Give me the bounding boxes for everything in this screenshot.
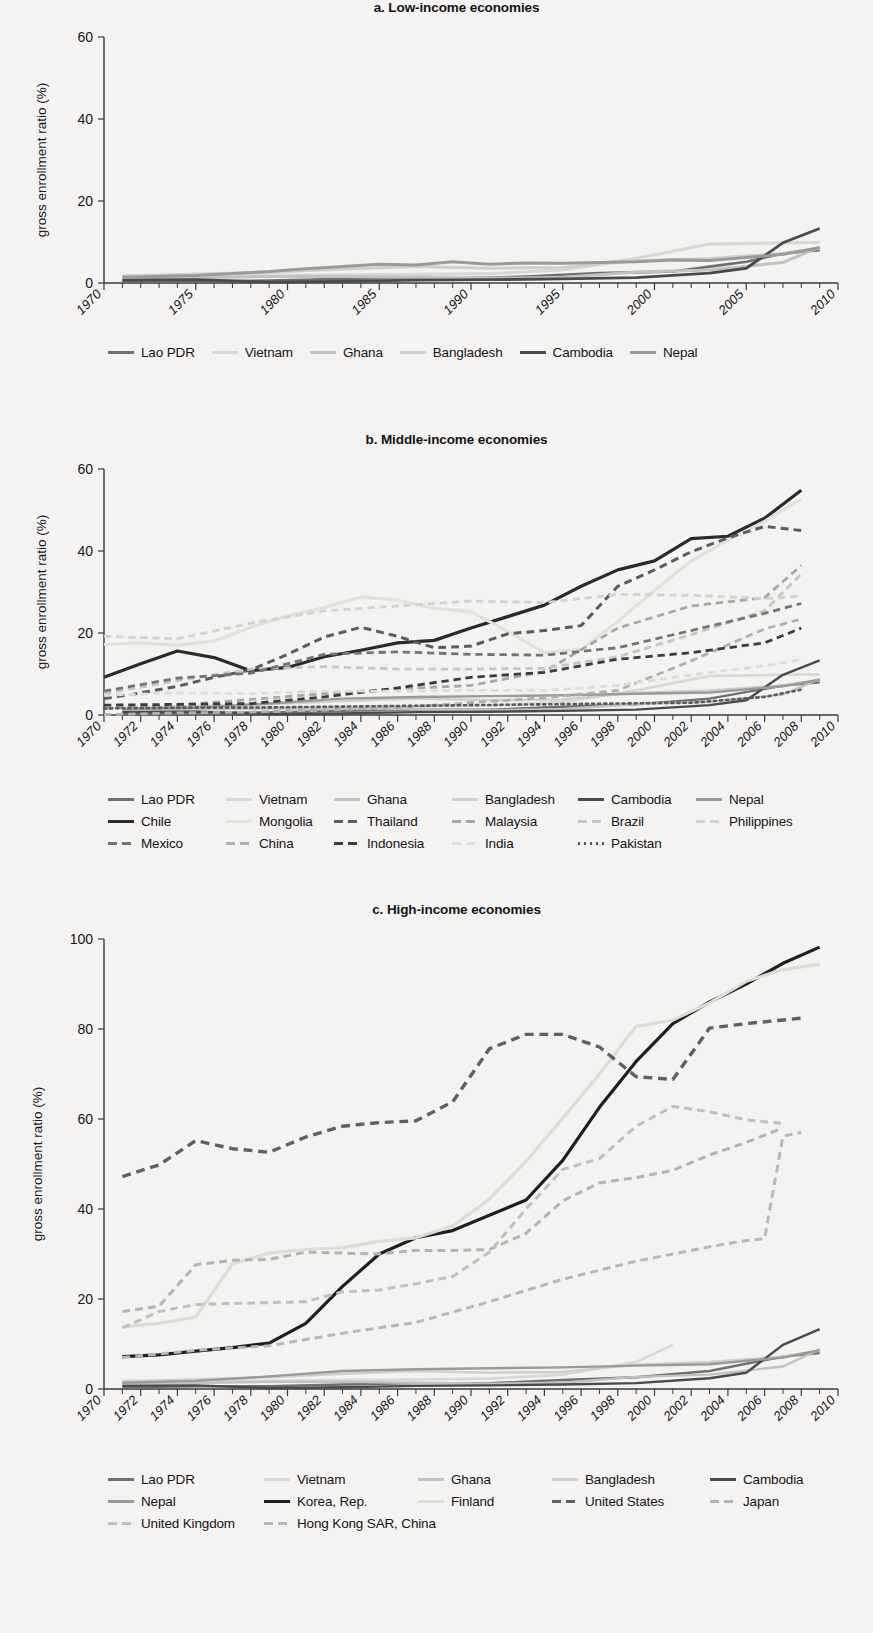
legend-swatch-icon (630, 351, 656, 354)
x-tick-label: 1998 (587, 718, 619, 750)
x-tick-label: 2006 (733, 1392, 765, 1424)
legend-item[interactable]: Cambodia (710, 1472, 820, 1487)
legend-row: NepalKorea, Rep.FinlandUnited StatesJapa… (108, 1494, 855, 1509)
legend-item[interactable]: Vietnam (264, 1472, 418, 1487)
panel-a-legend: Lao PDRVietnamGhanaBangladeshCambodiaNep… (0, 345, 873, 360)
legend-swatch-icon (334, 820, 360, 823)
y-axis-title: gross enrollment ratio (%) (34, 515, 49, 670)
legend-item[interactable]: Mexico (108, 836, 226, 851)
legend-label: Mexico (141, 836, 183, 851)
y-tick-label: 60 (77, 29, 93, 45)
legend-label: Nepal (141, 1494, 176, 1509)
panel-c-legend: Lao PDRVietnamGhanaBangladeshCambodia Ne… (0, 1472, 873, 1531)
legend-swatch-icon (400, 351, 426, 354)
legend-swatch-icon (108, 351, 134, 354)
legend-item[interactable]: Malaysia (452, 814, 578, 829)
legend-item[interactable]: Lao PDR (108, 1472, 264, 1487)
legend-item[interactable]: Chile (108, 814, 226, 829)
x-tick-label: 1996 (550, 1392, 582, 1424)
x-tick-label: 2008 (770, 1392, 802, 1424)
legend-swatch-icon (552, 1500, 578, 1503)
x-tick-label: 1988 (403, 1392, 435, 1424)
series-group (104, 490, 820, 714)
x-tick-label: 2008 (770, 718, 802, 750)
legend-label: Indonesia (367, 836, 424, 851)
legend-item[interactable]: Ghana (310, 345, 383, 360)
legend-label: United States (585, 1494, 664, 1509)
legend-label: Japan (743, 1494, 779, 1509)
legend-item[interactable]: Ghana (418, 1472, 552, 1487)
legend-label: Ghana (451, 1472, 491, 1487)
legend-label: Cambodia (743, 1472, 803, 1487)
legend-swatch-icon (108, 1478, 134, 1481)
legend-swatch-icon (264, 1478, 290, 1481)
legend-swatch-icon (226, 798, 252, 801)
legend-label: Ghana (343, 345, 383, 360)
legend-item[interactable]: Korea, Rep. (264, 1494, 418, 1509)
legend-item[interactable]: United States (552, 1494, 710, 1509)
legend-swatch-icon (226, 842, 252, 845)
x-tick-label: 1982 (293, 1392, 325, 1424)
legend-item[interactable]: Mongolia (226, 814, 334, 829)
legend-item[interactable]: Nepal (108, 1494, 264, 1509)
legend-item[interactable]: Vietnam (226, 792, 334, 807)
legend-item[interactable]: Bangladesh (552, 1472, 710, 1487)
x-tick-label: 1974 (146, 1393, 177, 1424)
legend-item[interactable]: Ghana (334, 792, 452, 807)
legend-item[interactable]: Lao PDR (108, 792, 226, 807)
legend-item[interactable]: Indonesia (334, 836, 452, 851)
y-tick-label: 60 (77, 461, 93, 477)
panel-c-title: c. High-income economies (0, 902, 873, 917)
x-tick-label: 1980 (257, 286, 289, 318)
chart-b-svg: 0204060gross enrollment ratio (%)1970197… (0, 447, 873, 792)
legend-label: Thailand (367, 814, 418, 829)
legend-label: Vietnam (297, 1472, 345, 1487)
x-tick-label: 1996 (550, 718, 582, 750)
y-tick-label: 20 (77, 625, 93, 641)
y-tick-label: 20 (77, 193, 93, 209)
legend-item[interactable]: Nepal (630, 345, 698, 360)
legend-item[interactable]: Vietnam (212, 345, 293, 360)
legend-item[interactable]: Philippines (696, 814, 796, 829)
x-tick-label: 2010 (806, 1392, 838, 1424)
legend-item[interactable]: Bangladesh (452, 792, 578, 807)
legend-label: Lao PDR (141, 792, 195, 807)
y-tick-label: 40 (77, 1201, 93, 1217)
legend-label: Bangladesh (485, 792, 555, 807)
legend-item[interactable]: Nepal (696, 792, 796, 807)
panel-a-title: a. Low-income economies (0, 0, 873, 15)
legend-item[interactable]: Cambodia (520, 345, 613, 360)
legend-swatch-icon (710, 1478, 736, 1481)
legend-item[interactable]: United Kingdom (108, 1516, 264, 1531)
legend-label: Ghana (367, 792, 407, 807)
legend-item[interactable]: Hong Kong SAR, China (264, 1516, 418, 1531)
legend-item[interactable]: Thailand (334, 814, 452, 829)
legend-item[interactable]: Pakistan (578, 836, 696, 851)
legend-swatch-icon (226, 820, 252, 823)
x-tick-label: 1980 (257, 718, 289, 750)
legend-item[interactable]: India (452, 836, 578, 851)
x-tick-label: 1984 (330, 719, 361, 750)
legend-item[interactable]: Bangladesh (400, 345, 503, 360)
legend-label: Vietnam (259, 792, 307, 807)
panel-b-plot: 0204060gross enrollment ratio (%)1970197… (0, 447, 873, 792)
legend-item[interactable]: China (226, 836, 334, 851)
x-tick-label: 1976 (183, 1392, 215, 1424)
legend-item[interactable]: Japan (710, 1494, 820, 1509)
legend-swatch-icon (264, 1500, 290, 1503)
series-group (122, 228, 819, 282)
x-tick-label: 2010 (806, 718, 838, 750)
legend-label: Nepal (663, 345, 698, 360)
figure-root: a. Low-income economies 0204060gross enr… (0, 0, 873, 1633)
legend-swatch-icon (578, 798, 604, 801)
panel-high-income: c. High-income economies 020406080100gro… (0, 902, 873, 1602)
x-tick-label: 1974 (146, 719, 177, 750)
panel-b-title: b. Middle-income economies (0, 432, 873, 447)
y-axis-title: gross enrollment ratio (%) (30, 1087, 45, 1242)
legend-swatch-icon (310, 351, 336, 354)
legend-item[interactable]: Finland (418, 1494, 552, 1509)
legend-item[interactable]: Brazil (578, 814, 696, 829)
legend-item[interactable]: Cambodia (578, 792, 696, 807)
series-line (122, 1133, 801, 1358)
legend-item[interactable]: Lao PDR (108, 345, 195, 360)
